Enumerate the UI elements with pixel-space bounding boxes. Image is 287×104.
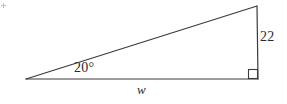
angle-label: 20° [74,61,94,75]
corner-speck-icon [1,3,6,8]
hypotenuse-line [26,6,257,79]
right-angle-marker-icon [249,70,258,79]
vertical-side-label: 22 [260,30,274,44]
triangle-figure: 20° 22 w [0,0,287,104]
vertical-side-line [257,6,258,79]
base-side-label: w [137,83,146,96]
